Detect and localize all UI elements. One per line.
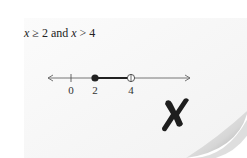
cross-mark-icon [0, 0, 247, 158]
